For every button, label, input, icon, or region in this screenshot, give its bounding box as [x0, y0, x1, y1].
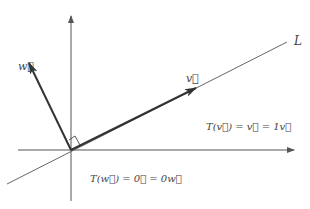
- vector-v-arrow: [71, 88, 196, 150]
- diagram-svg: L v⃗ w⃗ T(v⃗) = v⃗ = 1v⃗ T(w⃗) = 0⃗ = 0w…: [0, 0, 310, 209]
- vector-w-arrow: [29, 63, 71, 150]
- equation-tv: T(v⃗) = v⃗ = 1v⃗: [206, 121, 291, 132]
- line-l-label: L: [293, 34, 302, 48]
- vector-v-label: v⃗: [186, 72, 199, 85]
- equation-tw: T(w⃗) = 0⃗ = 0w⃗: [90, 173, 182, 184]
- diagram-canvas: L v⃗ w⃗ T(v⃗) = v⃗ = 1v⃗ T(w⃗) = 0⃗ = 0w…: [0, 0, 310, 209]
- vector-w-label: w⃗: [18, 60, 34, 73]
